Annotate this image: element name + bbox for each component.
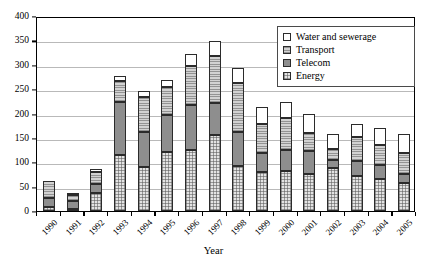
x-axis-tick: [368, 212, 369, 216]
x-axis-tick-label: 2001: [301, 218, 320, 237]
bar-segment-water: [114, 76, 126, 81]
bar-segment-telecom: [138, 132, 150, 167]
bar-column: [67, 194, 79, 211]
bar-segment-transport: [232, 83, 244, 131]
x-axis-tick-label: 1995: [159, 218, 178, 237]
x-axis-tick-label: 1990: [40, 218, 59, 237]
bar-segment-telecom: [232, 132, 244, 166]
bar-segment-energy: [67, 209, 79, 211]
bar-segment-energy: [398, 183, 410, 211]
legend-swatch-water-icon: [283, 33, 291, 41]
y-axis: 050100150200250300350400: [0, 0, 36, 229]
bar-segment-telecom: [43, 198, 55, 207]
y-axis-tick-label: 0: [24, 207, 29, 217]
x-axis-tick-label: 1999: [253, 218, 272, 237]
bar-segment-water: [161, 80, 173, 87]
legend-swatch-energy-icon: [283, 72, 291, 80]
x-axis-tick-label: 1998: [230, 218, 249, 237]
bar-segment-energy: [90, 193, 102, 211]
x-axis-tick-label: 2005: [395, 218, 414, 237]
bar-segment-transport: [114, 81, 126, 101]
legend-label-telecom: Telecom: [296, 58, 330, 68]
y-axis-tick-label: 400: [15, 12, 29, 22]
x-axis-tick: [249, 212, 250, 216]
x-axis-tick-label: 2000: [277, 218, 296, 237]
x-axis-tick: [36, 212, 37, 216]
x-axis-tick-label: 2004: [372, 218, 391, 237]
bar-segment-telecom: [327, 160, 339, 167]
bar-segment-telecom: [398, 174, 410, 182]
bar-segment-energy: [43, 207, 55, 211]
stacked-bar-chart: 050100150200250300350400 199019911992199…: [0, 0, 427, 265]
bar-segment-water: [303, 114, 315, 132]
bar-segment-telecom: [374, 165, 386, 179]
bar-segment-transport: [351, 137, 363, 160]
bar-segment-energy: [114, 155, 126, 211]
bar-segment-water: [67, 193, 79, 195]
bar-segment-telecom: [114, 102, 126, 155]
x-axis-tick: [131, 212, 132, 216]
bar-segment-water: [232, 68, 244, 83]
y-axis-tick-label: 300: [15, 61, 29, 71]
y-axis-tick-label: 200: [15, 110, 29, 120]
bar-column: [161, 80, 173, 211]
legend-item-telecom: Telecom: [283, 56, 410, 69]
bar-column: [351, 124, 363, 211]
x-axis-tick-label: 2002: [324, 218, 343, 237]
x-axis-tick: [273, 212, 274, 216]
bar-segment-telecom: [351, 161, 363, 177]
x-axis-tick-label: 2003: [348, 218, 367, 237]
chart-legend: Water and sewerage Transport Telecom Ene…: [277, 26, 415, 87]
x-axis-tick: [320, 212, 321, 216]
bar-segment-water: [185, 54, 197, 66]
x-axis-tick-label: 1993: [111, 218, 130, 237]
legend-swatch-transport-icon: [283, 46, 291, 54]
x-axis-tick-label: 1991: [64, 218, 83, 237]
bar-segment-water: [138, 91, 150, 97]
bar-segment-energy: [185, 150, 197, 211]
bar-segment-transport: [185, 66, 197, 105]
bar-segment-water: [398, 134, 410, 154]
bar-segment-water: [327, 134, 339, 149]
y-axis-tick-label: 150: [15, 134, 29, 144]
bar-segment-water: [90, 169, 102, 172]
bar-segment-energy: [232, 166, 244, 211]
bar-segment-transport: [43, 181, 55, 198]
bar-segment-telecom: [280, 150, 292, 171]
bar-segment-water: [256, 107, 268, 125]
x-axis-tick: [226, 212, 227, 216]
bar-segment-telecom: [90, 184, 102, 193]
bar-segment-transport: [398, 153, 410, 174]
x-axis-tick: [83, 212, 84, 216]
gridline: [37, 116, 414, 117]
bar-column: [90, 169, 102, 211]
bar-segment-telecom: [256, 153, 268, 172]
bar-column: [256, 107, 268, 211]
bar-segment-transport: [209, 56, 221, 103]
bar-segment-water: [209, 41, 221, 56]
bar-column: [280, 102, 292, 211]
bar-segment-transport: [161, 87, 173, 115]
y-axis-tick-label: 50: [20, 183, 30, 193]
bar-column: [43, 181, 55, 211]
x-axis-tick: [107, 212, 108, 216]
bar-column: [114, 76, 126, 211]
legend-item-transport: Transport: [283, 43, 410, 56]
x-axis-tick: [391, 212, 392, 216]
bar-segment-transport: [374, 145, 386, 165]
bar-segment-energy: [374, 179, 386, 211]
bar-segment-energy: [303, 174, 315, 211]
x-axis-tick: [60, 212, 61, 216]
x-axis-tick-label: 1992: [87, 218, 106, 237]
bar-column: [209, 41, 221, 211]
x-axis-tick: [178, 212, 179, 216]
bar-column: [138, 91, 150, 211]
bar-column: [303, 114, 315, 211]
x-axis-title: Year: [0, 245, 427, 256]
y-axis-tick-label: 250: [15, 85, 29, 95]
bar-segment-water: [351, 124, 363, 137]
y-axis-tick-label: 100: [15, 159, 29, 169]
gridline: [37, 91, 414, 92]
bar-segment-transport: [138, 97, 150, 132]
bar-segment-transport: [327, 149, 339, 160]
